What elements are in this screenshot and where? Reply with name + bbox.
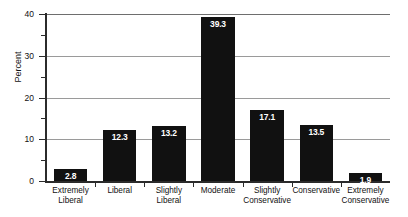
y-tick-10	[39, 139, 46, 140]
bar: 39.3	[201, 17, 234, 181]
category-label: SlightlyConservative	[243, 186, 292, 206]
bar: 2.8	[54, 169, 87, 181]
bar-value-label: 1.9	[349, 175, 382, 185]
bar-rect: 17.1	[250, 110, 283, 181]
x-axis-line	[45, 181, 390, 183]
bar-rect: 12.3	[103, 130, 136, 181]
bar-rect: 13.5	[300, 125, 333, 181]
bar-value-label: 13.5	[300, 127, 333, 137]
category-label: Conservative	[292, 186, 341, 196]
category-label: ExtremelyLiberal	[46, 186, 95, 206]
x-axis-category-labels: ExtremelyLiberalLiberalSlightlyLiberalMo…	[46, 186, 390, 216]
y-tick-label-0: 0	[12, 176, 34, 186]
category-label: Liberal	[95, 186, 144, 196]
y-tick-label-10: 10	[12, 134, 34, 144]
category-label: Moderate	[193, 186, 242, 196]
y-tick-20	[39, 98, 46, 99]
category-label: ExtremelyConservative	[341, 186, 390, 206]
bar-series: 2.812.313.239.317.113.51.9	[46, 14, 390, 181]
bar: 17.1	[250, 110, 283, 181]
bar-rect: 2.8	[54, 169, 87, 181]
y-tick-30	[39, 56, 46, 57]
bar-rect: 1.9	[349, 173, 382, 181]
y-tick-label-20: 20	[12, 93, 34, 103]
category-label: SlightlyLiberal	[144, 186, 193, 206]
bar: 13.2	[152, 126, 185, 181]
y-tick-label-30: 30	[12, 51, 34, 61]
bar-value-label: 12.3	[103, 132, 136, 142]
bar-value-label: 17.1	[250, 112, 283, 122]
bar-rect: 39.3	[201, 17, 234, 181]
bar-chart: Percent 010203040 2.812.313.239.317.113.…	[0, 0, 408, 217]
bar-value-label: 39.3	[201, 19, 234, 29]
y-tick-0	[39, 181, 46, 182]
bar-value-label: 13.2	[152, 128, 185, 138]
bar-rect: 13.2	[152, 126, 185, 181]
y-tick-label-40: 40	[12, 9, 34, 19]
bar: 1.9	[349, 173, 382, 181]
bar: 12.3	[103, 130, 136, 181]
bar-value-label: 2.8	[54, 171, 87, 181]
bar: 13.5	[300, 125, 333, 181]
y-tick-40	[39, 14, 46, 15]
